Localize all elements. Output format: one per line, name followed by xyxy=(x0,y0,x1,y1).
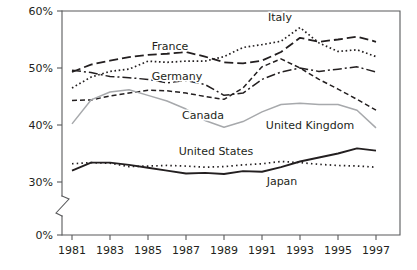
x-tick-label: 1995 xyxy=(324,244,352,257)
x-tick-label: 1991 xyxy=(248,244,276,257)
x-tick-label: 1997 xyxy=(362,244,390,257)
y-tick-label: 40% xyxy=(29,119,53,132)
line-chart: FranceFranceItalyItalyGermanyGermanyCana… xyxy=(0,0,417,270)
x-tick-label: 1983 xyxy=(96,244,124,257)
series-label-italy: Italy xyxy=(268,11,292,24)
x-tick-label: 1993 xyxy=(286,244,314,257)
chart-container: FranceFranceItalyItalyGermanyGermanyCana… xyxy=(0,0,417,270)
x-tick-label: 1981 xyxy=(58,244,86,257)
x-tick-label: 1989 xyxy=(210,244,238,257)
y-tick-label: 0% xyxy=(36,229,53,242)
series-label-united-kingdom: United Kingdom xyxy=(266,119,354,132)
series-label-canada: Canada xyxy=(182,109,224,122)
x-tick-label: 1985 xyxy=(134,244,162,257)
series-label-germany: Germany xyxy=(152,70,203,83)
series-inline-labels: FranceFranceItalyItalyGermanyGermanyCana… xyxy=(152,11,354,188)
series-line-canada xyxy=(72,59,376,110)
y-tick-label: 60% xyxy=(29,5,53,18)
series-line-france xyxy=(72,37,376,72)
y-tick-label: 30% xyxy=(29,176,53,189)
series-label-france: France xyxy=(152,40,189,53)
series-label-japan: Japan xyxy=(266,175,298,188)
y-axis-break-icon xyxy=(56,196,69,216)
y-tick-label: 50% xyxy=(29,62,53,75)
series-label-united-states: United States xyxy=(179,145,254,158)
x-tick-label: 1987 xyxy=(172,244,200,257)
series-line-italy xyxy=(72,28,376,88)
